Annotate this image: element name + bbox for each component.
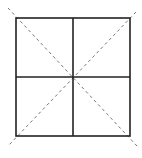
- grid-diagram: [0, 0, 142, 158]
- diagonal-top-right-to-bottom-left: [8, 12, 136, 146]
